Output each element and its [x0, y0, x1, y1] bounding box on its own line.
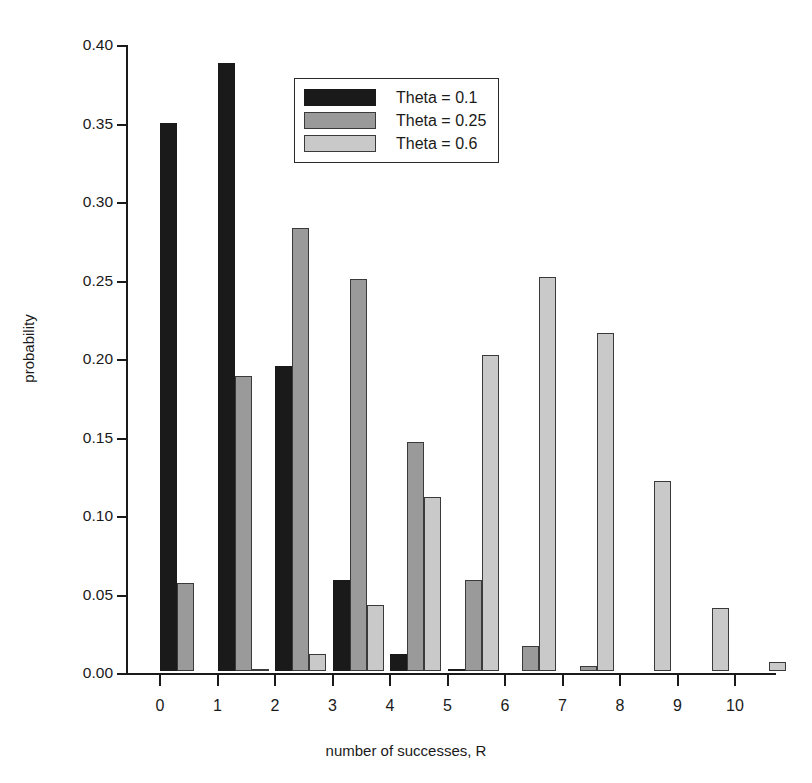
bar-r10-series3 — [769, 662, 786, 671]
chart-legend: Theta = 0.1Theta = 0.25Theta = 0.6 — [294, 78, 499, 163]
x-tick-label-10: 10 — [726, 697, 744, 715]
x-tick-mark-8 — [619, 675, 621, 686]
x-tick-label-5: 5 — [443, 697, 452, 715]
bar-r3-series3 — [367, 605, 384, 671]
x-tick-label-3: 3 — [328, 697, 337, 715]
x-tick-mark-3 — [332, 675, 334, 686]
bar-r7-series3 — [597, 333, 614, 671]
binomial-pmf-chart: probability 0.000.050.100.150.200.250.30… — [0, 0, 812, 783]
x-tick-label-7: 7 — [558, 697, 567, 715]
bar-r0-series2 — [177, 583, 194, 671]
x-tick-mark-10 — [734, 675, 736, 686]
x-tick-label-8: 8 — [616, 697, 625, 715]
legend-swatch-1 — [304, 89, 376, 106]
bar-r1-series1 — [218, 63, 235, 671]
y-tick-mark — [117, 124, 126, 126]
y-tick-mark — [117, 359, 126, 361]
y-tick-mark — [117, 202, 126, 204]
y-tick-label: 0.30 — [83, 193, 113, 211]
legend-entry-3: Theta = 0.6 — [304, 132, 486, 155]
x-tick-mark-0 — [159, 675, 161, 686]
bar-r9-series3 — [712, 608, 729, 671]
bar-r1-series2 — [235, 376, 252, 671]
legend-label-3: Theta = 0.6 — [396, 135, 477, 153]
bar-r0-series1 — [160, 123, 177, 671]
bar-r3-series2 — [350, 279, 367, 672]
y-tick-label: 0.05 — [83, 585, 113, 603]
x-tick-mark-9 — [677, 675, 679, 686]
bar-r2-series2 — [292, 228, 309, 671]
x-tick-label-0: 0 — [156, 697, 165, 715]
legend-entry-1: Theta = 0.1 — [304, 86, 486, 109]
bar-r6-series3 — [539, 277, 556, 671]
legend-swatch-2 — [304, 112, 376, 129]
y-tick-label: 0.25 — [83, 271, 113, 289]
bar-r4-series2 — [407, 442, 424, 671]
x-tick-mark-2 — [274, 675, 276, 686]
x-tick-mark-4 — [389, 675, 391, 686]
y-tick-label: 0.35 — [83, 114, 113, 132]
x-axis-title: number of successes, R — [0, 742, 812, 759]
legend-swatch-3 — [304, 135, 376, 152]
x-tick-label-9: 9 — [673, 697, 682, 715]
y-tick-mark — [117, 673, 126, 675]
bar-r3-series1 — [333, 580, 350, 671]
bar-r2-series1 — [275, 366, 292, 671]
x-tick-label-1: 1 — [213, 697, 222, 715]
y-tick-mark — [117, 438, 126, 440]
x-axis-line — [126, 673, 776, 675]
x-tick-mark-7 — [562, 675, 564, 686]
y-axis-line — [126, 45, 128, 674]
x-tick-label-2: 2 — [271, 697, 280, 715]
bar-r6-series2 — [522, 646, 539, 671]
y-tick-label: 0.40 — [83, 36, 113, 54]
legend-label-1: Theta = 0.1 — [396, 89, 477, 107]
y-tick-mark — [117, 281, 126, 283]
bar-r1-series3 — [252, 669, 269, 672]
y-tick-mark — [117, 45, 126, 47]
y-tick-label: 0.00 — [83, 664, 113, 682]
x-tick-label-6: 6 — [501, 697, 510, 715]
bar-r4-series3 — [424, 497, 441, 671]
x-tick-mark-5 — [447, 675, 449, 686]
x-tick-mark-1 — [217, 675, 219, 686]
y-tick-label: 0.20 — [83, 350, 113, 368]
legend-label-2: Theta = 0.25 — [396, 112, 486, 130]
legend-entry-2: Theta = 0.25 — [304, 109, 486, 132]
y-axis-title: probability — [20, 269, 37, 429]
y-tick-mark — [117, 595, 126, 597]
y-tick-label: 0.15 — [83, 428, 113, 446]
bar-r7-series2 — [580, 666, 597, 671]
bar-r5-series1 — [448, 669, 465, 671]
bar-r8-series3 — [654, 481, 671, 671]
bar-r5-series3 — [482, 355, 499, 671]
y-tick-mark — [117, 516, 126, 518]
bar-r5-series2 — [465, 580, 482, 671]
x-tick-label-4: 4 — [386, 697, 395, 715]
bar-r2-series3 — [309, 654, 326, 671]
bar-r4-series1 — [390, 654, 407, 671]
y-tick-label: 0.10 — [83, 507, 113, 525]
x-tick-mark-6 — [504, 675, 506, 686]
